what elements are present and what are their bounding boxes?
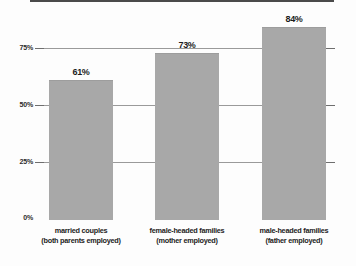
- bar-male-headed-families: [262, 27, 326, 220]
- x-axis-line: [30, 0, 334, 2]
- ytick-mark-75: [35, 48, 44, 49]
- category-label-male-headed-families: male-headed families (father employed): [234, 226, 354, 246]
- category-label-line1: male-headed families: [260, 226, 329, 235]
- category-label-line2: (both parents employed): [21, 236, 141, 246]
- ytick-mark-right-75: [326, 48, 335, 49]
- ytick-label-75-wrap: 75%: [0, 44, 33, 52]
- ytick-label-0-wrap: 0%: [0, 214, 33, 222]
- bar-chart: 75% 50% 25% 0% 61% 73% 84% married coupl…: [0, 0, 356, 266]
- category-label-female-headed-families: female-headed families (mother employed): [127, 226, 247, 246]
- bar-value-label: 73%: [155, 40, 219, 50]
- bar-married-couples: [49, 80, 113, 220]
- ytick-mark-right-50: [326, 105, 335, 106]
- ytick-mark-25: [35, 162, 44, 163]
- ytick-mark-right-25: [326, 162, 335, 163]
- ytick-mark-50: [35, 105, 44, 106]
- category-label-line2: (mother employed): [127, 236, 247, 246]
- ytick-label-25-wrap: 25%: [0, 158, 33, 166]
- ytick-label-25: 25%: [3, 158, 33, 166]
- ytick-label-75: 75%: [3, 44, 33, 52]
- ytick-label-0: 0%: [3, 214, 33, 222]
- ytick-label-50: 50%: [3, 101, 33, 109]
- bar-value-label: 84%: [262, 14, 326, 24]
- bar-female-headed-families: [155, 53, 219, 220]
- category-label-line1: female-headed families: [150, 226, 225, 235]
- plot-area: 75% 50% 25% 0% 61% 73% 84% married coupl…: [0, 0, 356, 266]
- category-label-line1: married couples: [55, 226, 108, 235]
- category-label-line2: (father employed): [234, 236, 354, 246]
- ytick-label-50-wrap: 50%: [0, 101, 33, 109]
- bar-value-label: 61%: [49, 67, 113, 77]
- category-label-married-couples: married couples (both parents employed): [21, 226, 141, 246]
